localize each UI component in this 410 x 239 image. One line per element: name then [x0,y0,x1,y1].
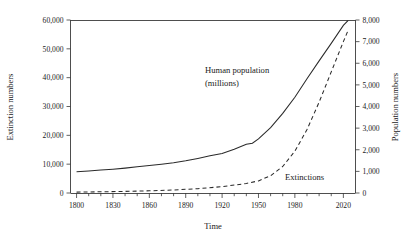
x-tick-label: 1950 [251,201,266,210]
left-tick-label: 20,000 [43,131,64,140]
x-tick-label: 1890 [178,201,193,210]
x-axis-ticks: 18001830186018901920195019802020 [69,193,351,210]
y2-axis-title: Population numbers [390,73,400,141]
x-tick-label: 1830 [105,201,120,210]
extinctions-label: Extinctions [285,172,325,182]
x-tick-label: 1920 [215,201,230,210]
x-axis-title: Time [204,221,222,231]
right-tick-label: 8,000 [363,16,380,25]
left-tick-label: 50,000 [43,45,64,54]
x-tick-label: 1860 [142,201,157,210]
right-tick-label: 3,000 [363,124,380,133]
x-tick-label: 1800 [69,201,84,210]
human-population-label-line1: Human population [205,65,270,75]
right-tick-label: 5,000 [363,81,380,90]
left-axis-ticks: 010,00020,00030,00040,00050,00060,000 [43,16,71,198]
left-tick-label: 10,000 [43,160,64,169]
right-tick-label: 2,000 [363,146,380,155]
left-tick-label: 40,000 [43,73,64,82]
x-tick-label: 2020 [336,201,351,210]
right-axis-ticks: 01,0002,0003,0004,0005,0006,0007,0008,00… [356,16,380,198]
right-tick-label: 6,000 [363,59,380,68]
series-line-extinctions [77,30,349,192]
left-tick-label: 0 [60,189,64,198]
right-tick-label: 4,000 [363,102,380,111]
y-axis-title: Extinction numbers [5,74,15,141]
chart-container: 010,00020,00030,00040,00050,00060,000 01… [0,0,410,239]
x-tick-label: 1980 [287,201,302,210]
right-tick-label: 7,000 [363,37,380,46]
right-tick-label: 1,000 [363,167,380,176]
right-tick-label: 0 [363,189,367,198]
human-population-label-line2: (millions) [205,78,239,88]
left-tick-label: 30,000 [43,102,64,111]
dual-axis-line-chart: 010,00020,00030,00040,00050,00060,000 01… [0,0,410,239]
left-tick-label: 60,000 [43,16,64,25]
series-line-human-population [77,20,349,171]
chart-axes [71,20,356,194]
